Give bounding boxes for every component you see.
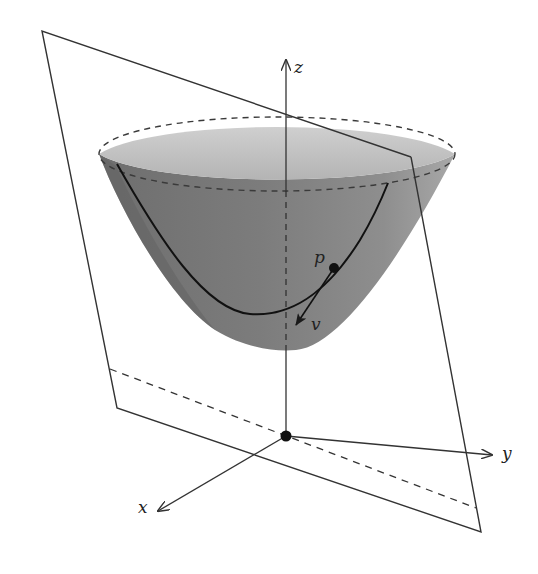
plane-dashed-line — [110, 369, 476, 508]
paraboloid-plane-diagram: z y x p v — [0, 0, 538, 574]
x-axis-label: x — [138, 497, 148, 517]
z-axis-label: z — [293, 57, 304, 77]
origin-point — [281, 431, 292, 442]
point-p-label: p — [314, 247, 325, 267]
y-axis-label: y — [501, 443, 512, 463]
point-p — [329, 263, 339, 273]
y-axis — [286, 436, 492, 455]
vector-v-label: v — [311, 314, 321, 334]
x-axis — [158, 436, 286, 511]
paraboloid-surface — [99, 127, 455, 350]
